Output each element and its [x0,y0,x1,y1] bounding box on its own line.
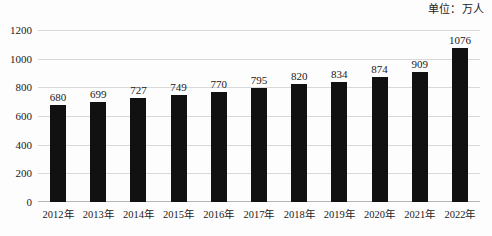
x-axis-category-label: 2015年 [163,209,194,221]
bar [171,95,187,202]
bar-value-label: 699 [90,88,107,100]
bar-value-label: 1076 [449,34,471,46]
y-axis-tick-label: 600 [16,111,33,122]
y-axis-tick-label: 200 [16,168,33,179]
unit-caption: 单位：万人 [428,2,484,16]
bar [211,92,227,202]
bar-value-label: 680 [50,91,67,103]
bar [251,88,267,202]
y-axis-tick-label: 1000 [10,53,32,64]
bar [90,102,106,202]
bar-value-label: 770 [211,78,228,90]
x-axis-category-label: 2012年 [43,209,74,221]
bar-value-label: 749 [170,81,187,93]
bar [452,48,468,202]
bar-group: 8742020年 [359,30,399,202]
y-axis-tick-label: 400 [16,139,33,150]
bar-group: 6992013年 [78,30,118,202]
x-axis-category-label: 2016年 [203,209,234,221]
bar-value-label: 834 [331,68,348,80]
bar [291,84,307,202]
x-axis-category-label: 2021年 [404,209,435,221]
plot-area: 0200400600800100012006802012年6992013年727… [38,30,480,202]
bar [331,82,347,202]
y-axis-tick-label: 0 [27,197,33,208]
bar-group: 10762022年 [440,30,480,202]
bar-value-label: 795 [251,74,268,86]
bar-group: 8202018年 [279,30,319,202]
bar-group: 7952017年 [239,30,279,202]
bar [412,72,428,202]
bar-value-label: 727 [130,84,147,96]
bar-chart: 单位：万人 0200400600800100012006802012年69920… [0,0,492,236]
bar-group: 6802012年 [38,30,78,202]
bar-value-label: 820 [291,70,308,82]
bar-group: 9092021年 [400,30,440,202]
bar-value-label: 909 [411,58,428,70]
x-axis-category-label: 2013年 [83,209,114,221]
bar [50,105,66,202]
bar-value-label: 874 [371,63,388,75]
bar [130,98,146,202]
x-axis-category-label: 2022年 [444,209,475,221]
bar-group: 8342019年 [319,30,359,202]
bar-group: 7702016年 [199,30,239,202]
x-axis-category-label: 2020年 [364,209,395,221]
x-axis-category-label: 2018年 [284,209,315,221]
bar-group: 7272014年 [118,30,158,202]
bar-group: 7492015年 [159,30,199,202]
x-axis-category-label: 2014年 [123,209,154,221]
x-axis-category-label: 2017年 [243,209,274,221]
bar [372,77,388,202]
y-axis-tick-label: 800 [16,82,33,93]
x-axis-category-label: 2019年 [324,209,355,221]
y-axis-tick-label: 1200 [10,25,32,36]
